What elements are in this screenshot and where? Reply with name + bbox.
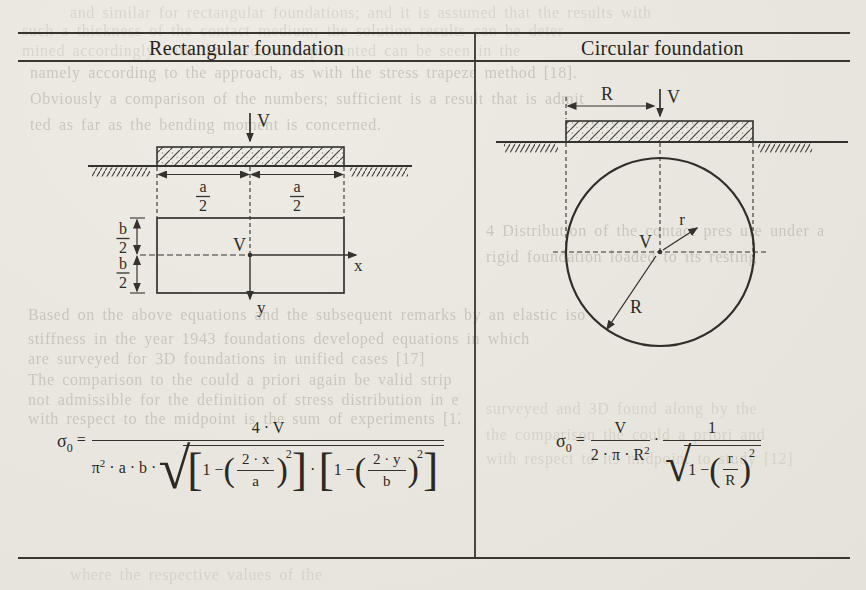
- radicand: [ 1 − ( 2 · x a ) 2 ] ·: [183, 445, 444, 490]
- radical-group: √ 1 − ( r R ) 2: [665, 444, 761, 489]
- load-label: V: [257, 111, 270, 131]
- center-load-label: V: [233, 235, 246, 255]
- left-paren: (: [355, 455, 366, 485]
- inner-fraction-y: 2 · y b: [368, 451, 406, 490]
- dim-a1-denominator: 2: [199, 197, 207, 214]
- pi-squared: π2 · a · b ·: [92, 457, 157, 477]
- header-circular-foundation: Circular foundation: [475, 37, 850, 60]
- left-paren: (: [709, 455, 720, 485]
- multiplication-dot: ·: [310, 461, 315, 479]
- exponent: 2: [417, 447, 423, 462]
- term-2: 1 − ( 2 · y b ) 2: [334, 451, 423, 490]
- dim-b1-denominator: 2: [119, 239, 127, 256]
- header-rectangular-foundation: Rectangular foundation: [18, 37, 475, 60]
- right-bracket: ]: [292, 450, 307, 490]
- exponent: 2: [749, 446, 755, 461]
- inner-fraction-x: 2 · x a: [237, 451, 275, 490]
- ground-hatch: [92, 168, 150, 177]
- left-bracket: [: [318, 450, 333, 490]
- second-fraction: 1 √ 1 − ( r R ) 2: [663, 418, 761, 489]
- one-minus: 1 −: [688, 461, 709, 479]
- center-load-label: V: [639, 232, 652, 252]
- radius-label: R: [630, 297, 642, 317]
- exponent: 2: [286, 447, 292, 462]
- denominator: √ 1 − ( r R ) 2: [663, 441, 761, 489]
- figure-line-art: V a 2 a 2 x y V: [0, 0, 866, 590]
- foundation-slab: [157, 147, 344, 166]
- foundation-slab: [566, 121, 753, 142]
- dim-b2-numerator: b: [119, 255, 127, 272]
- left-paren: (: [224, 455, 235, 485]
- one-minus: 1 −: [203, 461, 224, 479]
- sigma-symbol: σ0: [57, 431, 73, 456]
- term-1: 1 − ( 2 · x a ) 2: [203, 451, 292, 490]
- equals-sign: =: [576, 431, 585, 449]
- numerator: V: [591, 418, 650, 441]
- main-fraction: 4 · V π2 · a · b · √ [ 1 − ( 2 · x a: [92, 418, 445, 496]
- x-axis-label: x: [354, 256, 363, 275]
- book-page: and similar for rectangular foundations;…: [0, 0, 866, 590]
- radicand: 1 − ( r R ) 2: [684, 445, 761, 489]
- center-point: [658, 250, 663, 255]
- load-label: V: [667, 87, 680, 107]
- equals-sign: =: [77, 431, 86, 449]
- multiplication-dot: ·: [654, 431, 659, 449]
- rect-foundation-plan: x y V b 2 b 2: [117, 218, 364, 317]
- inner-fraction-r: r R: [723, 450, 738, 489]
- rect-stress-formula: σ0 = 4 · V π2 · a · b · √ [ 1 − ( 2 · x: [57, 418, 448, 496]
- circular-foundation-diagram: R V V r R: [496, 84, 848, 346]
- y-axis-label: y: [257, 298, 266, 317]
- numerator: 4 · V: [92, 418, 445, 441]
- radical-group: √ [ 1 − ( 2 · x a ) 2: [158, 444, 444, 496]
- radius-arrow: [607, 256, 656, 329]
- right-bracket: ]: [423, 450, 438, 490]
- dim-a2-denominator: 2: [293, 197, 301, 214]
- dim-b1-numerator: b: [119, 220, 127, 237]
- radical-sign: √: [158, 443, 190, 495]
- first-fraction: V 2 · π · R2: [591, 418, 650, 464]
- ground-hatch: [758, 144, 812, 153]
- radical-sign: √: [665, 443, 691, 487]
- inner-radius-arrow: [663, 228, 697, 250]
- center-point: [248, 253, 253, 258]
- inner-radius-label: r: [679, 210, 685, 229]
- ground-hatch: [504, 144, 558, 153]
- radius-dim-label: R: [601, 84, 613, 104]
- dim-b2-denominator: 2: [119, 274, 127, 291]
- denominator: π2 · a · b · √ [ 1 − ( 2 · x a ): [92, 441, 445, 496]
- term: 1 − ( r R ) 2: [688, 450, 755, 489]
- sigma-symbol: σ0: [556, 431, 572, 456]
- one-minus: 1 −: [334, 461, 355, 479]
- ground-hatch: [350, 168, 408, 177]
- denominator: 2 · π · R2: [591, 441, 650, 464]
- dim-a1-numerator: a: [199, 178, 206, 195]
- dim-a2-numerator: a: [293, 178, 300, 195]
- circle-stress-formula: σ0 = V 2 · π · R2 · 1 √ 1 − ( r: [556, 418, 765, 489]
